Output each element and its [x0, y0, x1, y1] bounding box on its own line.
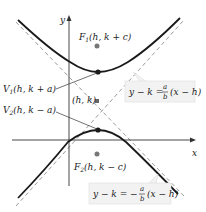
hyperbola-diagram: x y F1(h, k + c) V1(h, k + a) (h, k) V2(… [0, 0, 206, 212]
x-axis-label: x [192, 148, 197, 158]
vertex2-label: V2(h, k − a) [3, 105, 56, 116]
x-axis-arrow-icon [190, 138, 196, 143]
center-label: (h, k) [72, 95, 96, 105]
asymptote-negative-numerator: a [140, 185, 144, 193]
vertex2-leader [56, 112, 97, 129]
asymptote-positive-callout: y − k = a b (x − h) [125, 72, 202, 102]
vertex2-point [95, 127, 100, 132]
focus1-point [95, 44, 100, 49]
focus2-point [95, 152, 100, 157]
vertex1-label: V1(h, k + a) [3, 84, 56, 95]
callout-pointer [133, 72, 147, 82]
asymptote-positive-denominator: b [163, 93, 168, 101]
asymptote-negative-callout: y − k = − a b (x − h) [89, 174, 179, 204]
callout-pointer [148, 174, 158, 184]
asymptote-negative-denominator: b [140, 195, 145, 203]
asymptote-positive-numerator: a [163, 83, 167, 91]
asymptote-positive-equation-lhs: y − k = [128, 87, 163, 97]
vertex1-point [95, 69, 100, 74]
y-axis-label: y [59, 15, 66, 25]
focus2-label: F2(h, k − c) [73, 162, 127, 173]
asymptote-negative-equation-rhs: (x − h) [147, 189, 179, 199]
asymptote-negative-equation-lhs: y − k = − [92, 189, 138, 199]
asymptote-positive-equation-rhs: (x − h) [170, 87, 202, 97]
focus1-label: F1(h, k + c) [78, 32, 132, 43]
y-axis-arrow-icon [67, 15, 72, 21]
vertex1-leader [56, 73, 97, 89]
